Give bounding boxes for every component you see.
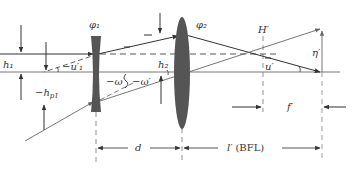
h2-angle-arc [167,70,168,75]
label-omega-prime: −ω′ [132,76,152,87]
chief-ray-out [97,29,320,102]
optical-diagram: φ₁ φ₂ h₁ −u′₁ −hp1 h₂ −ω −ω′ H′ u′ η′ f′… [0,0,352,172]
label-phi2: φ₂ [196,19,207,30]
chief-ray-in [25,102,93,141]
label-omega: −ω [106,76,123,87]
label-h1: h₁ [3,59,13,70]
lens2-positive [174,17,190,129]
label-u1-prime: −u′₁ [62,61,83,72]
label-l-prime: l′(BFL) [227,142,264,153]
label-eta-prime: η′ [312,47,321,58]
label-phi1: φ₁ [89,19,100,30]
omega-bracket [124,74,128,88]
lens1-negative [91,36,101,112]
label-H-prime: H′ [257,24,270,35]
label-d: d [135,142,141,153]
label-h2: h₂ [158,59,168,70]
label-hp1: −hp1 [35,87,59,100]
marginal-ray-mid [98,36,178,54]
label-u-prime: u′ [265,61,274,72]
label-f-prime: f′ [286,101,294,112]
